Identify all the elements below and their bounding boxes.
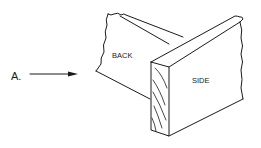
arrowhead-icon xyxy=(68,72,78,77)
back-board xyxy=(96,13,183,99)
side-label: SIDE xyxy=(192,76,210,85)
joint-diagram: A. BACK SIDE xyxy=(0,0,261,148)
back-label: BACK xyxy=(112,51,132,60)
pointer-label: A. xyxy=(11,70,21,82)
end-grain xyxy=(152,68,167,131)
